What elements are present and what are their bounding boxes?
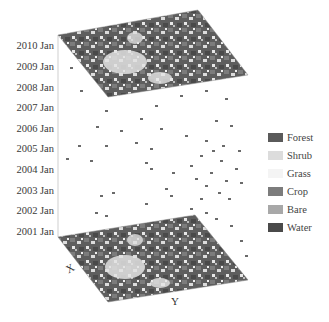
legend: Forest Shrub Grass Crop Bare Water — [268, 128, 313, 236]
time-label-2002: 2002 Jan — [4, 205, 54, 216]
legend-item-shrub: Shrub — [268, 146, 313, 164]
legend-item-grass: Grass — [268, 164, 313, 182]
bottom-plane-2001 — [58, 215, 248, 302]
time-label-2010: 2010 Jan — [4, 40, 54, 51]
time-label-2005: 2005 Jan — [4, 143, 54, 154]
legend-item-water: Water — [268, 218, 313, 236]
bare-swatch — [268, 205, 283, 214]
grass-swatch — [268, 169, 283, 178]
time-label-2008: 2008 Jan — [4, 82, 54, 93]
time-label-2001: 2001 Jan — [4, 226, 54, 237]
legend-item-bare: Bare — [268, 200, 313, 218]
legend-label: Shrub — [287, 150, 312, 161]
time-label-2004: 2004 Jan — [4, 164, 54, 175]
crop-swatch — [268, 187, 283, 196]
space-time-cube-figure: 2010 Jan 2009 Jan 2008 Jan 2007 Jan 2006… — [0, 0, 329, 322]
time-label-2007: 2007 Jan — [4, 102, 54, 113]
time-label-2009: 2009 Jan — [4, 61, 54, 72]
legend-item-crop: Crop — [268, 182, 313, 200]
legend-label: Forest — [287, 132, 313, 143]
forest-swatch — [268, 133, 283, 142]
time-label-2006: 2006 Jan — [4, 123, 54, 134]
legend-label: Grass — [287, 168, 311, 179]
legend-label: Water — [287, 222, 312, 233]
legend-label: Crop — [287, 186, 308, 197]
water-swatch — [268, 223, 283, 232]
time-label-2003: 2003 Jan — [4, 185, 54, 196]
legend-label: Bare — [287, 204, 307, 215]
legend-item-forest: Forest — [268, 128, 313, 146]
y-axis-label: Y — [171, 295, 179, 307]
shrub-swatch — [268, 151, 283, 160]
top-plane-2010 — [58, 10, 248, 97]
